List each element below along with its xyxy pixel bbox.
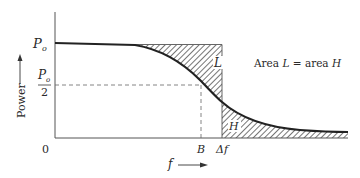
y-axis-label: Power	[15, 82, 28, 118]
origin-label: 0	[42, 143, 49, 156]
po-half-denominator: 2	[41, 86, 48, 99]
region-l-hatch	[135, 45, 222, 102]
y-axis-arrow-icon	[18, 54, 23, 61]
b-tick-label: B	[196, 143, 205, 156]
x-axis-label: f	[167, 157, 175, 171]
region-l-label: L	[213, 56, 222, 70]
diagram-canvas: L H P o P o 2 Power 0 B Δf f Area L = ar…	[0, 0, 360, 178]
x-axis-arrow-icon	[200, 163, 208, 168]
po-label-subscript: o	[42, 44, 47, 53]
po-label: P	[32, 36, 42, 51]
noise-bandwidth-diagram: L H P o P o 2 Power 0 B Δf f Area L = ar…	[0, 0, 360, 178]
po-half-numerator-subscript: o	[46, 76, 50, 84]
delta-f-tick-label: Δf	[215, 143, 230, 156]
area-annotation: Area L = area H	[253, 57, 342, 69]
region-h-label: H	[228, 120, 239, 133]
